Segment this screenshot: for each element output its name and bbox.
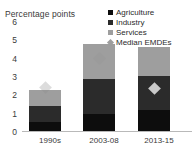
y-tick-0: 0 bbox=[12, 128, 17, 137]
y-tick-1: 1 bbox=[12, 109, 17, 118]
bar-segment-services bbox=[138, 47, 170, 76]
x-tick-1990s: 1990s bbox=[23, 136, 77, 145]
y-tick-3: 3 bbox=[12, 73, 17, 82]
legend-label-agriculture: Agriculture bbox=[116, 9, 154, 17]
x-tick-2013-15: 2013-15 bbox=[132, 136, 186, 145]
legend-label-services: Services bbox=[116, 29, 147, 37]
bar-segment-industry bbox=[29, 106, 61, 122]
legend-item-agriculture[interactable]: Agriculture bbox=[108, 8, 172, 17]
bar-group-1990s[interactable] bbox=[29, 90, 61, 132]
x-tick-2003-08: 2003-08 bbox=[77, 136, 131, 145]
bar-segment-agriculture bbox=[138, 110, 170, 132]
legend-label-industry: Industry bbox=[116, 19, 144, 27]
chart-legend: Agriculture Industry Services Median EMD… bbox=[108, 8, 172, 47]
chart-container: Percentage points 6 5 4 3 2 1 0 bbox=[0, 0, 195, 152]
bar-group-2013-15[interactable] bbox=[138, 47, 170, 132]
bar-group-2003-08[interactable] bbox=[83, 44, 115, 132]
legend-diamond-gray-icon bbox=[107, 39, 114, 46]
bar-segment-industry bbox=[83, 79, 115, 114]
y-tick-6: 6 bbox=[12, 18, 17, 27]
legend-square-black-icon bbox=[108, 10, 113, 15]
legend-square-darkgray-icon bbox=[108, 20, 113, 25]
legend-label-median-emdes: Median EMDEs bbox=[116, 39, 172, 47]
legend-item-industry[interactable]: Industry bbox=[108, 18, 172, 27]
legend-square-gray-icon bbox=[108, 30, 113, 35]
y-tick-5: 5 bbox=[12, 36, 17, 45]
y-tick-2: 2 bbox=[12, 91, 17, 100]
bar-segment-agriculture bbox=[83, 114, 115, 132]
legend-item-services[interactable]: Services bbox=[108, 28, 172, 37]
legend-item-median-emdes[interactable]: Median EMDEs bbox=[108, 38, 172, 47]
y-axis-tick-labels: 6 5 4 3 2 1 0 bbox=[0, 0, 17, 152]
y-tick-4: 4 bbox=[12, 54, 17, 63]
x-axis-baseline bbox=[22, 131, 192, 132]
